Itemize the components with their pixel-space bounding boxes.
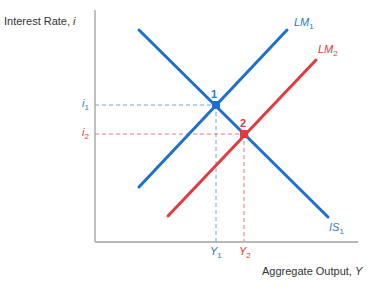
y2-label: Y2 <box>239 245 251 260</box>
x-axis-label: Aggregate Output, Y <box>262 265 362 277</box>
lm1-label: LM1 <box>294 16 314 31</box>
point-2-label: 2 <box>240 117 246 129</box>
y1-label: Y1 <box>210 245 222 260</box>
is1-label: IS1 <box>329 221 344 236</box>
i2-label: i2 <box>82 126 89 141</box>
is1-curve <box>139 30 328 217</box>
y-axis-label: Interest Rate, i <box>4 15 76 27</box>
lm2-label: LM2 <box>318 43 338 58</box>
i1-label: i1 <box>82 97 89 112</box>
equilibrium-point-2 <box>240 130 248 138</box>
point-1-label: 1 <box>211 88 217 100</box>
equilibrium-point-1 <box>212 101 220 109</box>
